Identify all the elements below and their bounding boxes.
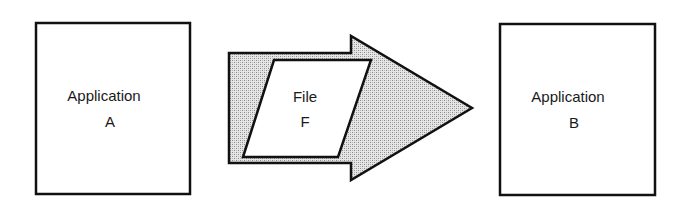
file-f-id: F: [300, 113, 309, 130]
application-b-box: Application B: [500, 24, 655, 195]
application-a-id: A: [105, 113, 115, 130]
file-transfer-diagram: Application A File F Application B: [0, 0, 687, 203]
application-a-box: Application A: [36, 23, 190, 194]
file-f-label: File: [293, 88, 317, 105]
application-a-label: Application: [67, 87, 140, 104]
application-b-label: Application: [531, 88, 604, 105]
application-b-id: B: [569, 114, 579, 131]
